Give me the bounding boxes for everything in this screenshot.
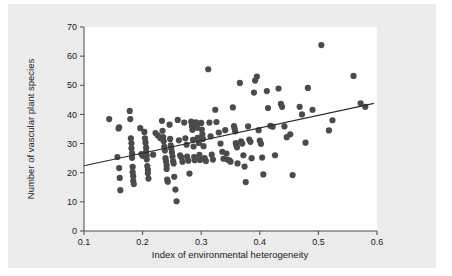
data-point xyxy=(200,143,206,149)
data-point xyxy=(116,165,122,171)
data-point xyxy=(290,172,296,178)
data-point xyxy=(254,73,260,79)
data-point xyxy=(161,138,167,144)
data-point xyxy=(212,107,218,113)
data-point xyxy=(258,141,264,147)
data-point xyxy=(185,158,191,164)
data-point xyxy=(106,116,112,122)
data-point xyxy=(181,119,187,125)
data-point xyxy=(150,152,156,158)
y-tick-label: 60 xyxy=(67,51,77,61)
x-tick-label: 0.4 xyxy=(254,237,267,247)
data-point xyxy=(243,179,249,185)
data-point xyxy=(234,160,240,166)
data-point xyxy=(116,124,122,130)
data-point xyxy=(326,127,332,133)
data-point xyxy=(350,73,356,79)
data-point xyxy=(179,159,185,165)
data-point xyxy=(176,137,182,143)
data-point xyxy=(241,163,247,169)
x-tick-label: 0.3 xyxy=(195,237,208,247)
y-axis-title: Number of vascular plant species xyxy=(25,59,36,200)
data-point xyxy=(166,122,172,128)
data-point xyxy=(117,175,123,181)
data-point xyxy=(309,107,315,113)
data-point xyxy=(247,139,253,145)
x-tick-label: 0.5 xyxy=(312,237,325,247)
y-tick-label: 10 xyxy=(67,197,77,207)
data-point xyxy=(175,117,181,123)
data-point xyxy=(239,140,245,146)
y-tick-label: 70 xyxy=(67,22,77,32)
data-point xyxy=(159,128,165,134)
y-tick-label: 0 xyxy=(72,226,77,236)
data-point xyxy=(237,80,243,86)
y-tick-label: 40 xyxy=(67,110,77,120)
x-tick-label: 0.2 xyxy=(136,237,149,247)
data-point xyxy=(245,123,251,129)
x-tick-label: 0.1 xyxy=(78,237,91,247)
data-point xyxy=(205,66,211,72)
data-point xyxy=(171,160,177,166)
x-tick-label: 0.6 xyxy=(371,237,384,247)
data-point xyxy=(203,158,209,164)
y-tick-label: 30 xyxy=(67,139,77,149)
data-point xyxy=(272,152,278,158)
data-point xyxy=(183,142,189,148)
data-point xyxy=(240,152,246,158)
data-point xyxy=(172,187,178,193)
data-point xyxy=(329,117,335,123)
data-point xyxy=(127,116,133,122)
data-point xyxy=(305,85,311,91)
y-axis-ticks: 010203040506070 xyxy=(67,22,84,236)
data-point xyxy=(297,104,303,110)
data-point xyxy=(182,135,188,141)
data-point xyxy=(249,155,255,161)
data-point xyxy=(281,123,287,129)
data-point xyxy=(217,140,223,146)
data-point xyxy=(302,140,308,146)
data-point xyxy=(264,88,270,94)
data-point xyxy=(145,170,151,176)
data-point xyxy=(279,104,285,110)
data-point xyxy=(127,108,133,114)
scatter-chart: 0.10.20.30.40.50.6 010203040506070 Index… xyxy=(0,0,452,276)
y-tick-label: 50 xyxy=(67,80,77,90)
data-point xyxy=(222,127,228,133)
data-point xyxy=(145,175,151,181)
data-point xyxy=(171,174,177,180)
y-tick-label: 20 xyxy=(67,168,77,178)
data-point xyxy=(173,198,179,204)
figure-container: 0.10.20.30.40.50.6 010203040506070 Index… xyxy=(0,0,452,276)
data-point xyxy=(165,179,171,185)
data-point xyxy=(299,111,305,117)
data-point xyxy=(227,159,233,165)
data-point xyxy=(190,143,196,149)
data-point xyxy=(287,131,293,137)
data-point xyxy=(206,119,212,125)
data-point xyxy=(167,136,173,142)
data-point xyxy=(259,154,265,160)
data-point xyxy=(230,104,236,110)
data-point xyxy=(210,157,216,163)
data-point xyxy=(260,171,266,177)
data-point xyxy=(275,85,281,91)
data-point xyxy=(141,129,147,135)
data-point xyxy=(159,118,165,124)
data-point xyxy=(164,166,170,172)
data-point xyxy=(251,89,257,95)
data-point xyxy=(234,144,240,150)
data-point xyxy=(265,105,271,111)
data-point xyxy=(318,42,324,48)
data-point xyxy=(198,120,204,126)
data-point xyxy=(144,156,150,162)
plot-area-background xyxy=(84,27,377,231)
data-point xyxy=(131,181,137,187)
x-axis-ticks: 0.10.20.30.40.50.6 xyxy=(78,231,384,247)
data-point xyxy=(216,129,222,135)
data-point xyxy=(186,170,192,176)
data-point xyxy=(223,150,229,156)
data-point xyxy=(117,187,123,193)
data-point xyxy=(213,119,219,125)
x-axis-title: Index of environmental heterogeneity xyxy=(152,249,309,260)
